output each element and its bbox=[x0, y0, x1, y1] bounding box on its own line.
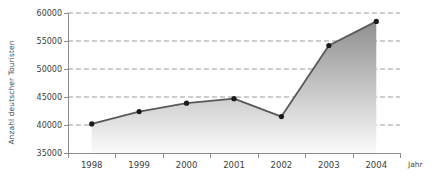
x-tick-label: 1999 bbox=[128, 160, 150, 170]
data-point-marker bbox=[231, 96, 236, 101]
x-tick-mark bbox=[210, 154, 211, 158]
data-point-marker bbox=[326, 43, 331, 48]
x-tick-mark bbox=[115, 154, 116, 158]
x-tick-label: 2000 bbox=[176, 160, 198, 170]
y-tick-mark bbox=[64, 153, 69, 154]
data-point-marker bbox=[184, 101, 189, 106]
x-axis-title: Jahr bbox=[408, 160, 423, 169]
y-axis-line bbox=[68, 13, 69, 154]
y-tick-mark bbox=[64, 13, 69, 14]
y-tick-mark bbox=[64, 97, 69, 98]
x-tick-label: 2003 bbox=[318, 160, 340, 170]
x-tick-mark bbox=[353, 154, 354, 158]
data-point-marker bbox=[89, 121, 94, 126]
x-tick-label: 2001 bbox=[223, 160, 245, 170]
x-axis-line bbox=[68, 153, 401, 154]
x-tick-mark bbox=[68, 154, 69, 158]
data-point-marker bbox=[374, 19, 379, 24]
data-series-area bbox=[0, 0, 438, 185]
x-tick-mark bbox=[258, 154, 259, 158]
y-tick-mark bbox=[64, 125, 69, 126]
x-tick-mark bbox=[400, 154, 401, 158]
line-chart: Anzahl deutscher Touristen 3500040000450… bbox=[0, 0, 438, 185]
y-tick-mark bbox=[64, 41, 69, 42]
data-point-marker bbox=[137, 109, 142, 114]
y-tick-mark bbox=[64, 69, 69, 70]
x-tick-label: 1998 bbox=[81, 160, 103, 170]
x-tick-label: 2002 bbox=[271, 160, 293, 170]
area-fill bbox=[92, 21, 377, 153]
x-tick-mark bbox=[305, 154, 306, 158]
x-tick-label: 2004 bbox=[365, 160, 387, 170]
x-tick-mark bbox=[163, 154, 164, 158]
data-point-marker bbox=[279, 114, 284, 119]
